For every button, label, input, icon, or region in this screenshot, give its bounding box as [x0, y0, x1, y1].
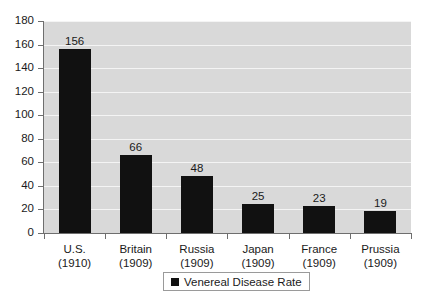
gridline [44, 68, 411, 69]
gridline [44, 209, 411, 210]
y-axis-label: 120 [15, 86, 34, 97]
chart-legend: Venereal Disease Rate [163, 272, 310, 291]
bar [303, 206, 335, 233]
y-axis-label: 60 [21, 156, 34, 167]
y-axis-tick [38, 209, 43, 210]
x-axis-tick [411, 234, 412, 239]
category-name: Prussia [350, 242, 411, 256]
x-axis-tick [289, 234, 290, 239]
x-axis-category-label: Japan(1909) [228, 242, 289, 270]
gridline [44, 92, 411, 93]
bar [120, 155, 152, 233]
y-axis-tick [38, 68, 43, 69]
gridline [44, 21, 411, 22]
bar-value-label: 156 [45, 35, 105, 47]
gridline [44, 186, 411, 187]
bar [242, 204, 274, 233]
category-name: Britain [105, 242, 166, 256]
y-axis-label: 100 [15, 109, 34, 120]
y-axis-label: 180 [15, 15, 34, 26]
bar-chart: 020406080100120140160180 U.S.(1910)Brita… [0, 0, 445, 300]
y-axis-tick [38, 233, 43, 234]
y-axis-tick [38, 21, 43, 22]
category-year: (1909) [228, 256, 289, 270]
y-axis-label: 40 [21, 180, 34, 191]
y-axis-label: 140 [15, 62, 34, 73]
legend-swatch-icon [171, 278, 179, 286]
category-year: (1910) [44, 256, 105, 270]
bar [364, 211, 396, 233]
category-year: (1909) [166, 256, 227, 270]
bar-value-label: 19 [350, 197, 410, 209]
x-axis-tick [166, 234, 167, 239]
x-axis-tick [227, 234, 228, 239]
y-axis-label: 160 [15, 39, 34, 50]
x-axis-tick [105, 234, 106, 239]
y-axis-tick [38, 115, 43, 116]
bar [181, 176, 213, 233]
bar-value-label: 25 [228, 190, 288, 202]
y-axis-tick [38, 139, 43, 140]
y-axis-label: 0 [28, 227, 34, 238]
category-name: Russia [166, 242, 227, 256]
category-year: (1909) [350, 256, 411, 270]
category-year: (1909) [105, 256, 166, 270]
x-axis-tick [44, 234, 45, 239]
x-axis-category-label: France(1909) [289, 242, 350, 270]
x-axis-category-label: Russia(1909) [166, 242, 227, 270]
category-name: U.S. [44, 242, 105, 256]
x-axis-category-label: Britain(1909) [105, 242, 166, 270]
gridline [44, 139, 411, 140]
category-name: France [289, 242, 350, 256]
gridline [44, 115, 411, 116]
y-axis-tick [38, 92, 43, 93]
bar-value-label: 48 [167, 162, 227, 174]
y-axis-tick [38, 162, 43, 163]
legend-label: Venereal Disease Rate [184, 276, 302, 288]
x-axis-category-label: U.S.(1910) [44, 242, 105, 270]
category-year: (1909) [289, 256, 350, 270]
bar-value-label: 23 [289, 192, 349, 204]
x-axis-category-label: Prussia(1909) [350, 242, 411, 270]
y-axis-label: 20 [21, 203, 34, 214]
gridline [44, 162, 411, 163]
category-name: Japan [228, 242, 289, 256]
bar-value-label: 66 [106, 141, 166, 153]
y-axis-line [43, 21, 44, 234]
y-axis-label: 80 [21, 133, 34, 144]
bar [59, 49, 91, 233]
x-axis-tick [350, 234, 351, 239]
y-axis-tick [38, 186, 43, 187]
y-axis-tick [38, 45, 43, 46]
